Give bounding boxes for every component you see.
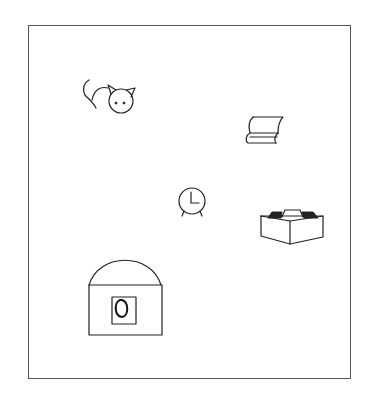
cat-icon <box>84 80 135 113</box>
handbag-icon <box>89 260 162 335</box>
alarm-clock-icon <box>179 188 205 216</box>
open-box-icon <box>261 210 323 244</box>
book-icon <box>246 117 283 143</box>
scene-canvas <box>0 0 376 406</box>
